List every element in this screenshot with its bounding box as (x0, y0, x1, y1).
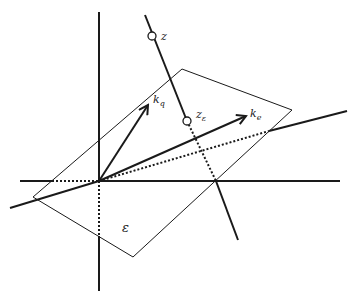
point-z (148, 32, 156, 40)
label-k-e: ke (250, 107, 262, 122)
line-z-hidden (187, 121, 216, 181)
point-z-epsilon (183, 117, 191, 125)
label-z-epsilon: zε (195, 108, 206, 123)
label-z: z (160, 30, 167, 43)
label-k-q: kq (153, 93, 165, 108)
label-plane-epsilon: ε (122, 220, 129, 235)
oblique-line-hidden (99, 131, 269, 181)
oblique-line-left (10, 181, 99, 208)
diagram-canvas: z zε kq ke ε (0, 0, 357, 301)
line-z-lower (216, 181, 238, 240)
diagram-svg: z zε kq ke ε (0, 0, 357, 301)
